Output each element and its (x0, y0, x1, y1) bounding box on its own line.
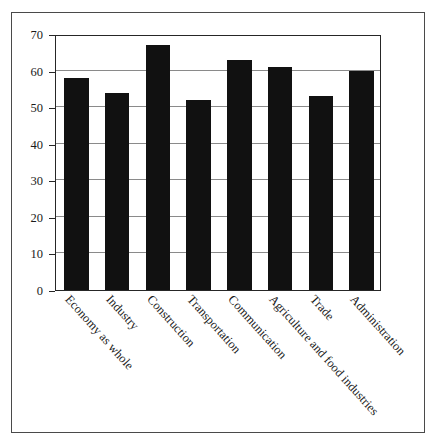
y-tick-label: 0 (13, 285, 43, 298)
y-tick-label: 10 (13, 248, 43, 261)
plot-area (55, 35, 381, 291)
figure-frame: 010203040506070 Economy as wholeIndustry… (11, 12, 425, 433)
y-tick-label: 70 (13, 29, 43, 42)
bar (105, 93, 129, 290)
x-tick-label: Industry (104, 293, 141, 332)
bar-chart: 010203040506070 Economy as wholeIndustry… (12, 13, 426, 434)
y-tick-label: 50 (13, 102, 43, 115)
bar (186, 100, 210, 290)
bar (349, 71, 373, 290)
y-tick-label: 30 (13, 175, 43, 188)
y-tick-mark (49, 291, 55, 292)
bar (309, 96, 333, 290)
bars-group (56, 36, 380, 290)
y-tick-label: 40 (13, 139, 43, 152)
x-tick-label: Trade (307, 293, 336, 323)
bar (64, 78, 88, 290)
y-tick-label: 20 (13, 212, 43, 225)
bar (268, 67, 292, 290)
bar (227, 60, 251, 290)
x-axis-labels: Economy as wholeIndustryConstructionTran… (55, 293, 381, 433)
bar (146, 45, 170, 290)
y-tick-label: 60 (13, 66, 43, 79)
x-tick-label: Administration (348, 293, 408, 358)
